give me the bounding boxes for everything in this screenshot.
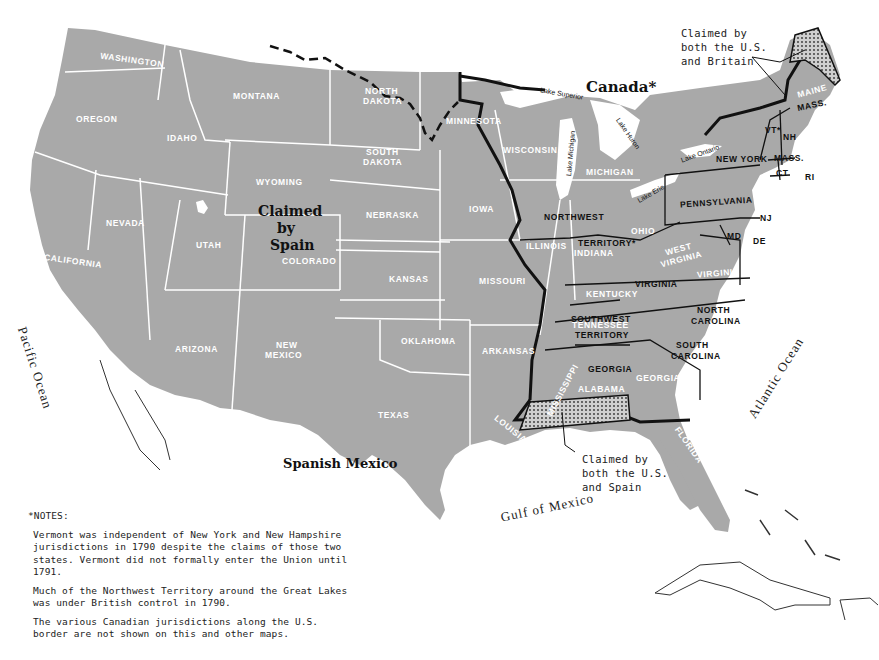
label-southwest-territory-1: SOUTHWEST: [571, 314, 631, 324]
label-by: by: [277, 220, 295, 236]
label-south-carolina-2: CAROLINA: [671, 351, 721, 361]
label-nebraska: NEBRASKA: [366, 210, 419, 220]
label-montana: MONTANA: [233, 91, 280, 101]
label-new-mexico-1: NEW: [276, 340, 298, 350]
label-nevada: NEVADA: [106, 218, 145, 228]
label-arkansas: ARKANSAS: [482, 346, 535, 356]
bahamas-outline: [745, 490, 840, 560]
label-ohio: OHIO: [631, 226, 655, 236]
label-alabama: ALABAMA: [578, 384, 625, 394]
label-indiana: INDIANA: [574, 248, 614, 258]
label-oregon: OREGON: [76, 114, 117, 124]
label-south-carolina-1: SOUTH: [676, 340, 709, 350]
label-colorado: COLORADO: [282, 256, 336, 266]
label-spanish-mexico: Spanish Mexico: [283, 456, 398, 471]
label-arizona: ARIZONA: [175, 344, 218, 354]
note-canadian-jurisdictions: The various Canadian jurisdictions along…: [33, 616, 358, 641]
label-georgia: GEORGIA: [588, 364, 632, 374]
label-texas: TEXAS: [378, 410, 409, 420]
label-wyoming: WYOMING: [256, 177, 303, 187]
label-maryland: MD: [727, 231, 741, 241]
label-virginia: VIRGINIA: [635, 279, 678, 289]
label-georgia-modern: GEORGIA: [636, 373, 680, 383]
label-south-dakota-1: SOUTH: [366, 147, 399, 157]
note-vermont: Vermont was independent of New York and …: [33, 529, 358, 579]
label-wisconsin: WISCONSIN: [503, 145, 558, 155]
label-north-dakota-1: NORTH: [365, 86, 398, 96]
label-new-hampshire: NH: [783, 132, 796, 142]
label-oklahoma: OKLAHOMA: [401, 336, 456, 346]
label-northwest-territory-1: NORTHWEST: [544, 212, 604, 222]
note-northwest-territory: Much of the Northwest Territory around t…: [33, 585, 358, 610]
cuba-outline: [655, 562, 830, 610]
label-connecticut: CT: [776, 168, 789, 178]
label-massachusetts: MASS.: [774, 153, 804, 163]
label-canada: Canada*: [586, 78, 656, 96]
label-delaware: DE: [753, 236, 766, 246]
label-rhode-island: RI: [805, 172, 815, 182]
label-michigan: MICHIGAN: [586, 167, 634, 177]
label-spain: Spain: [270, 237, 314, 253]
label-north-carolina-2: CAROLINA: [691, 316, 741, 326]
notes-panel: *NOTES: Vermont was independent of New Y…: [28, 510, 358, 647]
label-illinois: ILLINOIS: [526, 241, 567, 251]
label-new-york: NEW YORK: [716, 154, 767, 164]
callout-us-britain: Claimed by both the U.S. and Britain: [681, 26, 767, 68]
label-north-dakota-2: DAKOTA: [363, 96, 402, 106]
callout-us-spain: Claimed by both the U.S. and Spain: [582, 452, 668, 494]
label-idaho: IDAHO: [167, 133, 197, 143]
label-vermont: VT*: [765, 125, 781, 135]
label-north-carolina-1: NORTH: [697, 305, 730, 315]
label-iowa: IOWA: [469, 204, 494, 214]
notes-title: *NOTES:: [28, 510, 358, 523]
label-new-mexico-2: MEXICO: [265, 350, 302, 360]
label-minnesota: MINNESOTA: [446, 116, 502, 126]
label-southwest-territory-2: TERRITORY: [575, 330, 629, 340]
label-northwest-territory-2: TERRITORY*: [578, 238, 636, 248]
label-kentucky: KENTUCKY: [586, 289, 638, 299]
label-utah: UTAH: [196, 240, 221, 250]
hispaniola-outline: [840, 598, 878, 620]
label-south-dakota-2: DAKOTA: [363, 157, 402, 167]
label-missouri: MISSOURI: [479, 276, 526, 286]
label-new-jersey: NJ: [760, 213, 772, 223]
label-kansas: KANSAS: [389, 274, 429, 284]
label-claimed: Claimed: [258, 203, 322, 219]
